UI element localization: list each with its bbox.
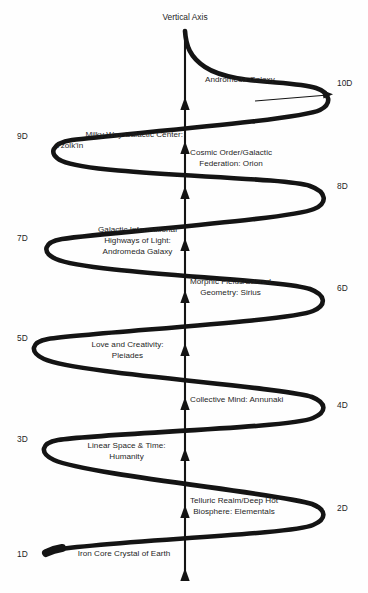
level-label-7d-line1: Galactic Informational: [0, 224, 183, 235]
level-label-7d-line2: Highways of Light:: [0, 235, 183, 246]
level-label-6d-line1: Morphic Fields/Sacred: [190, 276, 271, 287]
level-label-10d-line1: Andromeda Galaxy: [205, 74, 275, 85]
dimension-marker-2d: 2D: [337, 503, 348, 513]
level-label-8d: Cosmic Order/Galactic Federation: Orion: [190, 147, 272, 169]
level-label-9d: Milky Way Galactic Center: Tzolk'in: [0, 129, 183, 151]
level-label-3d: Linear Space & Time: Humanity: [0, 440, 175, 462]
page-title: Vertical Axis: [162, 12, 207, 22]
level-label-2d-line1: Telluric Realm/Deep Hot: [190, 495, 278, 506]
dimension-marker-10d: 10D: [337, 78, 352, 88]
level-label-10d: Andromeda Galaxy: [205, 74, 275, 85]
level-label-2d-line2: Biosphere: Elementals: [190, 506, 278, 517]
level-label-4d: Collective Mind: Annunaki: [190, 394, 283, 405]
dimension-marker-8d: 8D: [337, 181, 348, 191]
level-label-3d-line2: Humanity: [0, 451, 175, 462]
level-label-7d-line3: Andromeda Galaxy: [0, 246, 183, 257]
level-label-6d: Morphic Fields/Sacred Geometry: Sirius: [190, 276, 271, 298]
level-label-3d-line1: Linear Space & Time:: [0, 440, 175, 451]
level-label-6d-line2: Geometry: Sirius: [190, 287, 271, 298]
level-label-2d: Telluric Realm/Deep Hot Biosphere: Eleme…: [190, 495, 278, 517]
dimension-marker-6d: 6D: [337, 283, 348, 293]
level-label-7d: Galactic Informational Highways of Light…: [0, 224, 183, 258]
spiral-graphic: [0, 0, 368, 593]
level-label-9d-line2: Tzolk'in: [0, 140, 183, 151]
dimension-marker-4d: 4D: [337, 400, 348, 410]
level-label-8d-line1: Cosmic Order/Galactic: [190, 147, 272, 158]
level-label-8d-line2: Federation: Orion: [190, 158, 272, 169]
level-label-5d-line2: Pleiades: [0, 350, 175, 361]
spiral-dimensions-diagram: Vertical Axis 9D 7D 5D 3D 1D 10D 8D 6D 4…: [0, 0, 368, 593]
level-label-4d-line1: Collective Mind: Annunaki: [190, 394, 283, 405]
level-label-9d-line1: Milky Way Galactic Center:: [0, 129, 183, 140]
level-label-5d: Love and Creativity: Pleiades: [0, 339, 175, 361]
level-label-1d-line1: Iron Core Crystal of Earth: [0, 548, 178, 559]
level-label-1d: Iron Core Crystal of Earth: [0, 548, 178, 559]
level-label-5d-line1: Love and Creativity:: [0, 339, 175, 350]
